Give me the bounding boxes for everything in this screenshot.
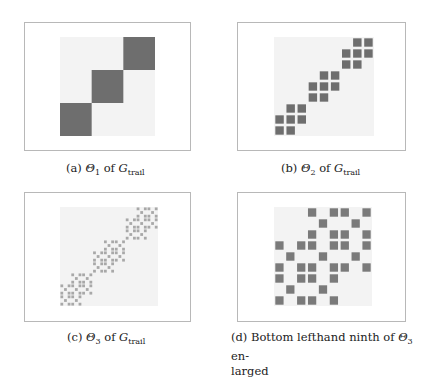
theta-symbol: Θ [86,330,95,344]
graph-subscript: trail [343,168,360,177]
caption-of: of [104,330,115,344]
theta-index: 3 [408,337,413,346]
theta-index: 2 [310,168,315,177]
theta-index: 1 [95,168,100,177]
caption-text: Bottom lefthand ninth of [251,330,395,344]
panel-a-plot [60,37,155,136]
caption-label: (c) [67,330,82,344]
theta-3-matrix-plot [60,207,158,306]
theta-index: 3 [96,337,101,346]
panel-c-plot [60,207,158,306]
caption-text-hyphen: en- [231,349,249,363]
caption-of: of [104,161,115,175]
theta-symbol: Θ [86,161,95,175]
caption-c: (c) Θ3 of Gtrail [67,330,145,349]
caption-text-line2: larged [231,364,269,378]
caption-label: (a) [66,161,82,175]
caption-d: (d) Bottom lefthand ninth of Θ3 en- larg… [231,330,416,379]
theta-1-matrix-plot [60,37,155,136]
caption-label: (b) [281,161,297,175]
panel-d-plot [274,207,372,306]
caption-label: (d) [231,330,247,344]
graph-symbol: G [119,161,128,175]
caption-b: (b) Θ2 of Gtrail [281,161,360,180]
graph-symbol: G [334,161,343,175]
theta-symbol: Θ [398,330,407,344]
graph-symbol: G [119,330,128,344]
graph-subscript: trail [128,337,145,346]
graph-subscript: trail [128,168,145,177]
caption-a: (a) Θ1 of Gtrail [66,161,145,180]
theta-2-matrix-plot [274,37,374,136]
panel-b-plot [274,37,374,136]
theta-3-enlarged-plot [274,207,372,306]
caption-of: of [319,161,330,175]
